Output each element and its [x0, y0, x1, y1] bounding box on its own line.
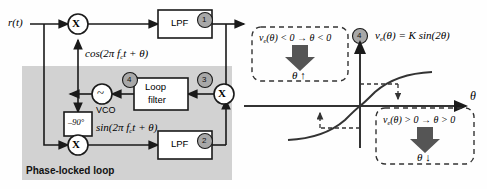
carrier-sin-head: sin(2π f	[96, 121, 129, 133]
callout-positive-result: θ ↓	[417, 152, 431, 163]
carrier-cos-label: cos(2π fct + θ)	[85, 48, 148, 61]
badge-3: 3	[202, 76, 206, 84]
callout-boxes	[252, 27, 474, 164]
error-mixer-symbol: X	[218, 88, 226, 99]
callout-positive-condition: ve(θ) > 0 → θ > 0	[383, 115, 455, 126]
phase-shift-label: –90°	[68, 118, 84, 127]
loop-filter-label-line1: Loop	[145, 82, 166, 92]
loop-filter-label-line2: filter	[148, 95, 166, 105]
badge-4: 4	[127, 76, 131, 84]
badge-2: 2	[202, 137, 206, 145]
plot-equation: ve(θ) = K sin(2θ)	[375, 30, 450, 43]
plot-x-axis-label: θ	[470, 90, 476, 102]
carrier-cos-head: cos(2π f	[85, 47, 120, 59]
down-arrow-negative	[285, 45, 315, 71]
vco-symbol: ~	[97, 86, 104, 99]
carrier-cos-tail: t + θ)	[123, 47, 148, 59]
pll-region-label: Phase-locked loop	[26, 166, 114, 176]
lpf-bottom-label: LPF	[171, 139, 188, 149]
input-label: r(t)	[8, 17, 23, 28]
callout-neg-rest: (θ) < 0 → θ < 0	[266, 32, 331, 43]
callout-negative-condition: ve(θ) < 0 → θ < 0	[259, 33, 331, 44]
figure-root: r(t) LPF LPF Loop filter –90° VCO ~ X X …	[0, 0, 487, 189]
bottom-mixer-symbol: X	[72, 139, 80, 150]
carrier-sin-label: sin(2π fct + θ)	[96, 122, 157, 135]
down-arrow-positive	[410, 127, 440, 153]
badge-1: 1	[202, 16, 206, 24]
top-mixer-symbol: X	[72, 18, 80, 29]
vco-label: VCO	[96, 106, 116, 115]
plot-equation-rest: (θ) = K sin(2θ)	[383, 29, 450, 41]
callout-negative-result: θ ↑	[292, 70, 306, 81]
carrier-sin-tail: t + θ)	[132, 121, 157, 133]
lpf-top-label: LPF	[171, 18, 188, 28]
badge-plot-4: 4	[357, 32, 361, 40]
callout-pos-rest: (θ) > 0 → θ > 0	[390, 114, 455, 125]
